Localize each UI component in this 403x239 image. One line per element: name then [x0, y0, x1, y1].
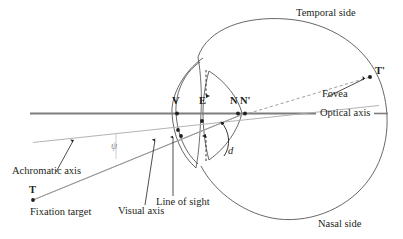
angle-psi-label: ψ — [111, 141, 117, 151]
optical-axis-label: Optical axis — [320, 108, 370, 119]
point-label-E: E — [199, 96, 206, 107]
point-label-N: N — [230, 96, 238, 107]
point-label-V: V — [172, 96, 180, 107]
visual-axis-label: Visual axis — [118, 206, 164, 217]
temporal-side-label: Temporal side — [296, 8, 356, 19]
visual-axis-leader — [145, 140, 155, 205]
point-dot-Np — [243, 112, 247, 116]
point-dot-V — [175, 112, 179, 116]
fixation-target-label: Fixation target — [30, 207, 91, 218]
point-label-T: T — [29, 185, 36, 196]
point-dot-Tp — [368, 75, 372, 79]
fovea-label: Fovea — [322, 89, 348, 100]
eyeball-globe-outline — [198, 19, 387, 220]
point-label-N-prime: N' — [240, 96, 251, 107]
crystalline-lens-outline — [203, 71, 242, 160]
line-of-sight-label: Line of sight — [156, 197, 210, 208]
point-dot-N — [236, 112, 240, 116]
point-dot-T — [31, 198, 35, 202]
eye-optics-figure: Temporal side Nasal side Optical axis Ac… — [0, 0, 403, 239]
point-dot-E — [200, 119, 204, 123]
point-dot-V3 — [179, 134, 183, 138]
achromatic-axis-label: Achromatic axis — [12, 166, 81, 177]
point-dot-V2 — [176, 128, 180, 132]
nasal-side-label: Nasal side — [318, 219, 361, 230]
point-label-T-prime: T' — [375, 66, 385, 77]
pupil-diameter-label: d — [228, 146, 233, 157]
